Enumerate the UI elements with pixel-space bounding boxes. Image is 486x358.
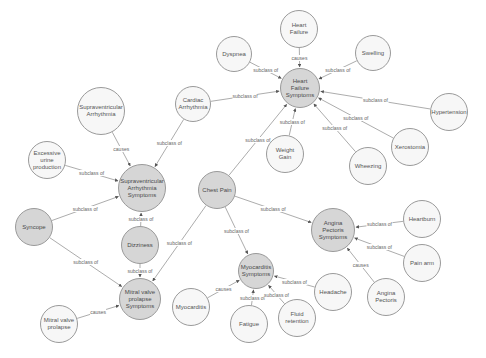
edge-label: subclass of [127,268,152,274]
edge-label: subclass of [264,292,289,298]
node-sas[interactable]: Supraventricular Arrhythmia Symptoms [118,164,166,212]
node-xer[interactable]: Xerostomia [391,128,429,166]
node-ap[interactable]: Angina Pectoris [367,278,405,316]
edge-label: causes [353,262,369,268]
node-eup[interactable]: Excessive urine production [28,141,66,179]
edge-label: subclass of [167,240,192,246]
node-label: Fatigue [237,321,261,328]
node-label: Mitral valve prolapse [41,317,77,331]
edge-label: subclass of [282,279,307,285]
node-wg[interactable]: Weight Gain [266,135,304,173]
node-pa[interactable]: Pain arm [403,244,441,282]
node-fat[interactable]: Fatigue [230,305,268,343]
edge-label: causes [90,309,106,315]
node-label: Excessive urine production [29,150,65,171]
node-label: Heartburn [407,216,438,223]
node-label: Heart Failure Symptoms [281,78,319,99]
node-myo[interactable]: Myocarditis [172,288,210,326]
edge-label: causes [292,55,308,61]
node-syn[interactable]: Syncope [15,208,53,246]
node-label: Supraventricular Arrhythmia Symptoms [118,178,166,199]
node-dys[interactable]: Dyspnea [216,36,252,72]
edge-label: subclass of [343,115,368,121]
node-hyp[interactable]: Hypertension [430,93,468,131]
node-ms[interactable]: Myocarditis Symptoms [238,253,274,289]
node-label: Weight Gain [267,147,303,161]
node-mvps[interactable]: Mitral valve prolapse Symptoms [119,278,161,320]
node-label: Myocarditis [174,304,208,311]
node-ca[interactable]: Cardiac Arrhythmia [175,86,211,122]
node-hf[interactable]: Heart Failure [280,10,318,48]
edge-label: subclass of [79,170,104,176]
edge-label: subclass of [280,119,305,125]
node-swe[interactable]: Swelling [355,35,391,71]
edge-label: subclass of [253,67,278,73]
node-hfs[interactable]: Heart Failure Symptoms [280,68,320,108]
node-label: Cardiac Arrhythmia [176,97,210,111]
node-label: Mitral valve prolapse Symptoms [120,289,160,310]
node-label: Pain arm [408,260,436,267]
edge-label: subclass of [363,97,388,103]
node-label: Angina Pectoris Symptoms [312,220,354,241]
edge-label: subclass of [325,67,350,73]
node-label: Myocarditis Symptoms [239,264,273,278]
node-hb[interactable]: Heartburn [403,200,441,238]
node-ha[interactable]: Headache [314,273,352,311]
node-label: Syncope [20,224,47,231]
node-label: Supraventricular Arrhythmia [77,104,125,118]
node-fr[interactable]: Fluid retention [278,299,316,337]
node-label: Hypertension [429,109,468,116]
node-mvp[interactable]: Mitral valve prolapse [40,305,78,343]
edge-label: subclass of [245,137,270,143]
node-cp[interactable]: Chest Pain [198,171,236,209]
node-label: Dyspnea [220,51,248,58]
edge-label: subclass of [367,221,392,227]
node-label: Chest Pain [200,187,233,194]
edge-label: subclass of [261,206,286,212]
edge-label: subclass of [233,93,258,99]
node-label: Swelling [360,50,386,57]
edge-label: subclass of [240,295,265,301]
ontology-graph-canvas: causessubclass ofsubclass ofsubclass ofs… [0,0,486,358]
node-whe[interactable]: Wheezing [349,147,387,185]
edge-label: subclass of [73,206,98,212]
edge-label: subclass of [224,228,249,234]
node-sa[interactable]: Supraventricular Arrhythmia [77,87,125,135]
edge-label: subclass of [367,244,392,250]
node-label: Angina Pectoris [368,290,404,304]
node-label: Dizziness [125,242,155,249]
node-label: Heart Failure [281,22,317,36]
node-label: Fluid retention [279,311,315,325]
node-aps[interactable]: Angina Pectoris Symptoms [311,208,355,252]
node-label: Headache [317,289,348,296]
node-diz[interactable]: Dizziness [121,226,159,264]
edge-label: subclass of [73,259,98,265]
edge-label: subclass of [128,216,153,222]
edge-label: causes [113,146,129,152]
edge-label: subclass of [157,140,182,146]
node-label: Wheezing [353,163,384,170]
edge-label: causes [216,286,232,292]
node-label: Xerostomia [393,144,427,151]
edge-label: subclass of [322,125,347,131]
